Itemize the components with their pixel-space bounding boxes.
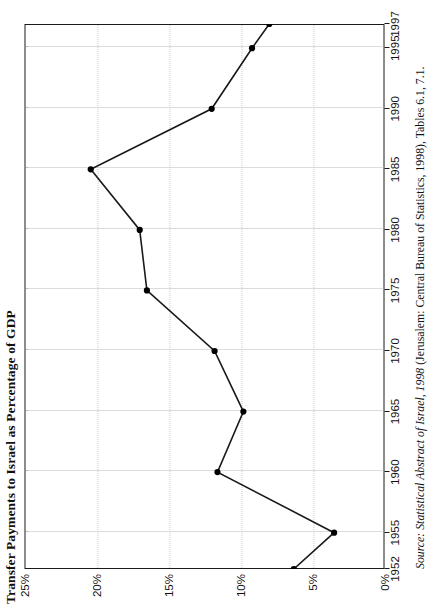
x-axis-tick-label: 1970 xyxy=(388,338,400,364)
x-axis-tick-mark xyxy=(384,168,389,169)
x-axis-tick-mark xyxy=(384,471,389,472)
x-axis-tick-mark xyxy=(384,568,389,569)
x-axis-tick-mark xyxy=(384,289,389,290)
data-point xyxy=(248,45,254,51)
source-rest: (Jerusalem: Central Bureau of Statistics… xyxy=(412,66,426,367)
x-axis-tick-label: 1965 xyxy=(388,399,400,425)
source-label: Source: xyxy=(412,533,426,569)
x-axis-tick-label: 1980 xyxy=(388,217,400,243)
data-point xyxy=(214,469,220,475)
y-axis-tick-label: 5% xyxy=(306,574,318,610)
x-axis-tick-label: 1997 xyxy=(388,11,400,37)
data-point xyxy=(290,566,296,569)
x-axis-tick-mark xyxy=(384,23,389,24)
x-axis-tick-label: 1960 xyxy=(388,459,400,485)
data-point-markers xyxy=(87,24,337,569)
y-axis-tick-label: 20% xyxy=(90,574,102,610)
x-axis-tick-label: 1985 xyxy=(388,157,400,183)
x-axis-tick-label: 1990 xyxy=(388,96,400,122)
x-axis-tick-label: 1995 xyxy=(388,35,400,61)
source-title: Statistical Abstract of Israel, 1998 xyxy=(412,368,426,530)
y-axis-tick-label: 25% xyxy=(18,574,30,610)
data-point xyxy=(143,287,149,293)
chart-page: Transfer Payments to Israel as Percentag… xyxy=(0,0,445,610)
rotated-figure-wrapper: Transfer Payments to Israel as Percentag… xyxy=(0,0,445,610)
x-axis-tick-label: 1955 xyxy=(388,520,400,546)
x-axis-tick-mark xyxy=(384,411,389,412)
figure: Transfer Payments to Israel as Percentag… xyxy=(0,0,445,610)
x-axis-tick-label: 1952 xyxy=(388,556,400,582)
x-axis-tick-mark xyxy=(384,229,389,230)
chart-title: Transfer Payments to Israel as Percentag… xyxy=(2,310,18,604)
data-point xyxy=(240,408,246,414)
x-axis-tick-mark xyxy=(384,47,389,48)
x-axis-tick-mark xyxy=(384,108,389,109)
data-point xyxy=(87,166,93,172)
y-axis-tick-label: 10% xyxy=(234,574,246,610)
source-note: Source: Statistical Abstract of Israel, … xyxy=(412,66,427,569)
x-axis-tick-mark xyxy=(384,532,389,533)
x-axis-tick-label: 1975 xyxy=(388,278,400,304)
x-axis-tick-mark xyxy=(384,350,389,351)
y-axis-tick-label: 15% xyxy=(162,574,174,610)
data-line-layer xyxy=(24,24,384,569)
